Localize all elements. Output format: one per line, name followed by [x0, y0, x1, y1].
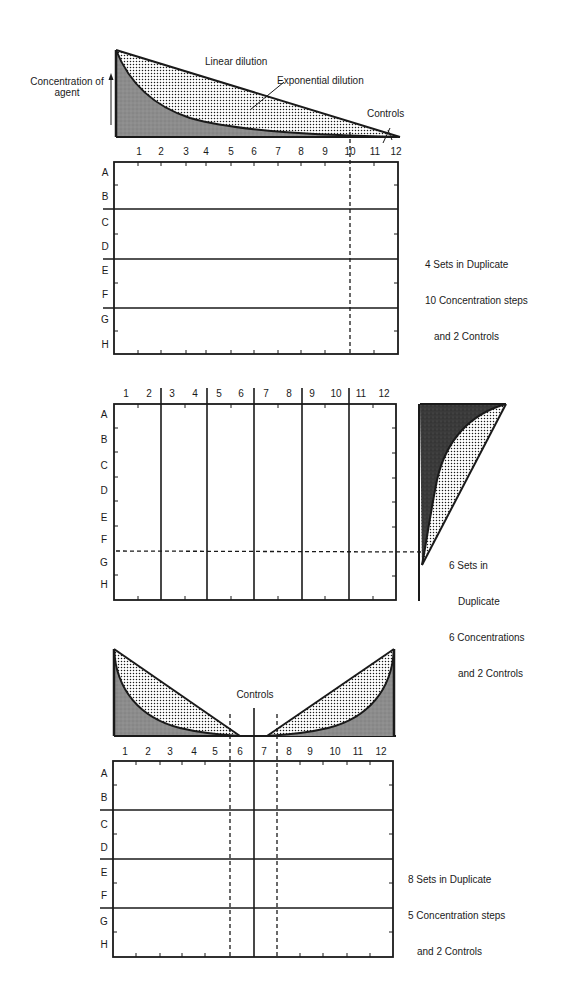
svg-text:F: F [101, 890, 107, 901]
svg-text:E: E [101, 512, 108, 523]
svg-text:7: 7 [275, 146, 281, 157]
svg-text:F: F [101, 534, 107, 545]
svg-text:8: 8 [286, 746, 292, 757]
svg-text:B: B [102, 191, 109, 202]
svg-text:D: D [100, 842, 107, 853]
svg-text:2: 2 [145, 746, 151, 757]
svg-text:12: 12 [375, 746, 387, 757]
svg-text:5: 5 [216, 388, 222, 399]
svg-text:2: 2 [146, 388, 152, 399]
svg-text:3: 3 [169, 388, 175, 399]
svg-text:5: 5 [212, 746, 218, 757]
svg-text:H: H [101, 339, 108, 350]
svg-text:6: 6 [238, 388, 244, 399]
panel2-row-labels: A B C D E F G H [100, 409, 108, 590]
svg-text:4: 4 [192, 388, 198, 399]
svg-text:1: 1 [123, 388, 129, 399]
svg-text:D: D [101, 241, 108, 252]
svg-text:B: B [101, 792, 108, 803]
svg-text:A: A [101, 768, 108, 779]
svg-text:7: 7 [261, 746, 267, 757]
svg-text:12: 12 [390, 146, 402, 157]
svg-text:1: 1 [122, 746, 128, 757]
panel2-column-labels: 1 2 3 4 5 6 7 8 9 10 11 12 [123, 388, 390, 399]
svg-text:10: 10 [330, 388, 342, 399]
panel1-column-labels: 1 2 3 4 5 6 7 8 9 10 11 12 [136, 146, 402, 157]
svg-text:9: 9 [309, 388, 315, 399]
svg-text:H: H [100, 579, 107, 590]
svg-text:8: 8 [286, 388, 292, 399]
controls-label-panel3: Controls [236, 689, 273, 700]
svg-text:10: 10 [329, 746, 341, 757]
svg-text:A: A [102, 167, 109, 178]
panel1-dilution-curve [109, 50, 401, 355]
panel3-note: 8 Sets in Duplicate 5 Concentration step… [408, 850, 505, 970]
svg-text:12: 12 [378, 388, 390, 399]
svg-text:8: 8 [298, 146, 304, 157]
svg-text:6: 6 [237, 746, 243, 757]
svg-text:G: G [100, 557, 108, 568]
svg-text:10: 10 [344, 146, 356, 157]
svg-text:C: C [100, 460, 107, 471]
panel1-note: 4 Sets in Duplicate 10 Concentration ste… [425, 235, 528, 355]
svg-text:11: 11 [353, 746, 364, 757]
svg-text:6: 6 [251, 146, 257, 157]
svg-text:2: 2 [158, 146, 164, 157]
svg-text:G: G [100, 916, 108, 927]
linear-dilution-label: Linear dilution [205, 56, 267, 67]
svg-text:E: E [102, 265, 109, 276]
panel2-note: 6 Sets in Duplicate 6 Concentrations and… [449, 536, 525, 692]
svg-text:9: 9 [307, 746, 313, 757]
controls-label: Controls [367, 108, 404, 119]
svg-text:4: 4 [191, 746, 197, 757]
y-axis-label-2: agent [54, 87, 79, 98]
svg-text:11: 11 [356, 388, 367, 399]
svg-text:D: D [100, 485, 107, 496]
svg-text:7: 7 [263, 388, 269, 399]
svg-text:E: E [101, 867, 108, 878]
svg-text:9: 9 [322, 146, 328, 157]
y-axis-label: Concentration of [30, 76, 104, 87]
svg-text:C: C [100, 819, 107, 830]
svg-text:3: 3 [167, 746, 173, 757]
svg-text:C: C [101, 217, 108, 228]
panel1-plate [103, 162, 398, 354]
svg-text:1: 1 [136, 146, 142, 157]
panel2-plate [114, 388, 425, 600]
svg-text:5: 5 [228, 146, 234, 157]
panel3-plate [100, 761, 393, 957]
svg-text:F: F [102, 289, 108, 300]
svg-text:G: G [101, 314, 109, 325]
svg-text:3: 3 [183, 146, 189, 157]
exponential-dilution-label: Exponential dilution [277, 75, 364, 86]
svg-text:H: H [100, 939, 107, 950]
svg-text:B: B [101, 434, 108, 445]
svg-text:4: 4 [203, 146, 209, 157]
svg-text:11: 11 [370, 146, 381, 157]
svg-text:A: A [101, 409, 108, 420]
